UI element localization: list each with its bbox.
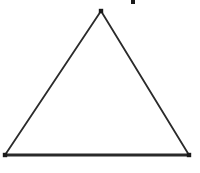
stray-marks-group xyxy=(131,0,135,4)
vertex-marker-bottom-left xyxy=(3,153,7,157)
vertex-marker-apex xyxy=(99,9,103,13)
figure-background xyxy=(0,0,200,173)
vertex-marker-bottom-right xyxy=(187,153,191,157)
triangle-figure xyxy=(0,0,200,173)
top-right-speck xyxy=(131,0,135,4)
diagram-canvas: triangle-diagram xyxy=(0,0,200,173)
